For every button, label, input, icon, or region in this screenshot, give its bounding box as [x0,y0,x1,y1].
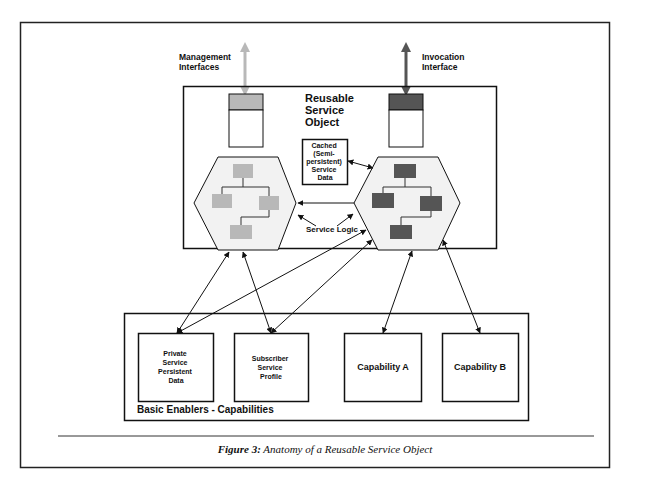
invocation-interface-arrow [401,42,411,96]
invocation-port-stem [389,110,423,147]
invocation-interface-label: Invocation Interface [422,52,467,72]
enabler-label-capability-b: Capability B [454,362,507,372]
management-port-stem [229,110,263,147]
service-logic-label: Service Logic [306,225,359,234]
management-port [229,94,263,110]
management-interfaces-label: Management Interfaces [179,52,233,72]
invocation-logic-hexagon [354,157,460,250]
management-interface-arrow [240,42,250,96]
outer-frame [21,23,610,468]
rso-title: Reusable Service Object [305,92,357,128]
figure-caption: Figure 3: Anatomy of a Reusable Service … [217,443,434,455]
management-logic-hexagon [194,157,296,250]
enabler-label-capability-a: Capability A [357,362,409,372]
diagram-canvas: Management Interfaces Invocation Interfa… [0,0,647,489]
invocation-port [389,94,423,110]
basic-enablers-title: Basic Enablers - Capabilities [137,404,274,415]
